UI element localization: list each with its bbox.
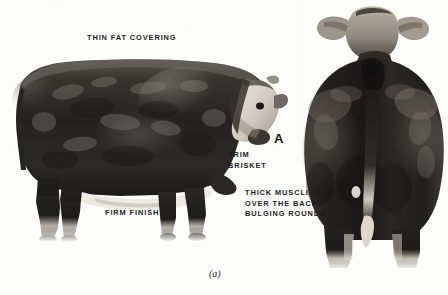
rear-tail-head — [361, 59, 385, 90]
annotation-firm-finish: FIRM FINISH — [105, 208, 159, 219]
annotation-thick-muscling: THICK MUSCLING OVER THE BACK, BULGING RO… — [245, 188, 326, 220]
steer-eye — [256, 103, 264, 110]
steer-rear-view-photo — [300, 2, 446, 270]
rear-hide-marking — [352, 186, 361, 198]
annotation-trim-brisket: TRIM BRISKET — [228, 150, 267, 171]
annotation-thin-fat-covering: THIN FAT COVERING — [87, 33, 176, 44]
rear-view-illustration — [300, 2, 446, 270]
panel-letter-a: A — [274, 131, 283, 146]
figure-panel: THIN FAT COVERING TRIM BRISKET FIRM FINI… — [0, 0, 448, 295]
figure-caption: (a) — [209, 268, 221, 279]
